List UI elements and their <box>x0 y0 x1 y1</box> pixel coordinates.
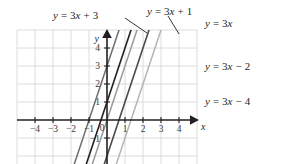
y-tick-label-1: 1 <box>95 97 100 107</box>
equation-label-y-3x-minus-4: y=3x−4 <box>204 95 251 107</box>
eq0-eq: = <box>61 9 67 21</box>
y-tick-label-4: 4 <box>95 43 100 53</box>
eq3-var: x <box>227 60 233 72</box>
eq1-eq: = <box>155 5 161 17</box>
equation-label-y-3x-plus-1: y=3x+1 <box>146 5 192 17</box>
x-tick-label-4: 4 <box>177 124 182 134</box>
graph-figure: −4 −3 −2 −1 1 2 3 4 0 4 3 2 1 −1 x y y=3… <box>0 0 281 164</box>
x-tick-label--1: −1 <box>84 124 94 134</box>
x-axis-name: x <box>200 121 206 132</box>
y-tick-label-3: 3 <box>95 61 100 71</box>
eq2-eq: = <box>213 17 219 29</box>
eq0-const: 3 <box>93 9 99 21</box>
equation-label-y-3x: y=3x <box>204 17 233 29</box>
eq4-eq: = <box>213 95 219 107</box>
equation-label-y-3x-minus-2: y=3x−2 <box>204 60 250 72</box>
eq1-op: + <box>178 5 184 17</box>
eq4-op: − <box>236 95 242 107</box>
x-tick-label--2: −2 <box>66 124 76 134</box>
eq0-lhs: y <box>52 9 58 21</box>
x-tick-label--4: −4 <box>30 124 40 134</box>
eq0-op: + <box>84 9 90 21</box>
x-tick-label-1: 1 <box>123 124 128 134</box>
x-tick-label--3: −3 <box>48 124 58 134</box>
y-axis-name: y <box>94 33 100 44</box>
eq1-lhs: y <box>146 5 152 17</box>
origin-label: 0 <box>100 123 105 133</box>
equation-label-y-3x-plus-3: y=3x+3 <box>52 9 99 21</box>
eq2-var: x <box>227 17 233 29</box>
y-tick-label--1: −1 <box>90 134 100 144</box>
eq4-const: 4 <box>245 95 251 107</box>
eq3-lhs: y <box>204 60 210 72</box>
x-tick-label-2: 2 <box>141 124 146 134</box>
eq3-op: − <box>236 60 242 72</box>
x-tick-label-3: 3 <box>159 124 164 134</box>
y-tick-label-2: 2 <box>95 79 100 89</box>
coordinate-plane-svg: −4 −3 −2 −1 1 2 3 4 0 4 3 2 1 −1 x y y=3… <box>0 0 281 164</box>
eq3-const: 2 <box>245 60 251 72</box>
eq1-const: 1 <box>187 5 193 17</box>
eq3-eq: = <box>213 60 219 72</box>
eq4-lhs: y <box>204 95 210 107</box>
eq4-var: x <box>227 95 233 107</box>
eq2-lhs: y <box>204 17 210 29</box>
eq0-var: x <box>75 9 81 21</box>
eq1-var: x <box>169 5 175 17</box>
